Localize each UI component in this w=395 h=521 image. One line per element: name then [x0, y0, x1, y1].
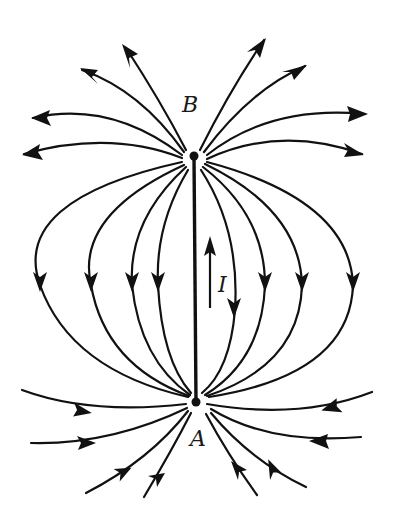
label-a: A [188, 426, 206, 451]
point-a-dot [192, 398, 201, 407]
wire-segment-ab [194, 156, 196, 402]
field-line-diagram: B A I [0, 0, 395, 521]
label-current: I [217, 272, 228, 297]
arrow-icon [247, 38, 266, 58]
arrow-icon [347, 106, 368, 122]
arrow-icon [309, 434, 329, 449]
arrow-icon [22, 144, 43, 160]
arrow-icon [84, 272, 98, 292]
arrow-icon [227, 298, 241, 318]
arrow-icon [31, 110, 51, 126]
label-b: B [181, 92, 198, 117]
arrow-icon [33, 272, 47, 292]
arrow-icon [319, 398, 342, 418]
arrow-icon [282, 65, 307, 80]
arrow-icon [113, 461, 135, 482]
left-loop-lines [33, 162, 191, 397]
point-b-dot [190, 152, 199, 161]
